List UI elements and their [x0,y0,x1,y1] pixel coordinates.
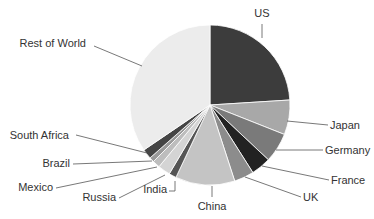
leader-line [169,181,175,191]
leader-line [245,177,301,197]
leader-line [56,167,157,188]
leader-line [262,166,329,180]
slice-label: India [143,183,168,195]
pie-chart: USJapanGermanyFranceUKChinaIndiaRussiaMe… [0,0,374,219]
slice-label: China [198,200,228,212]
pie-slice-us [210,25,290,105]
slice-label: Mexico [18,181,53,193]
slice-label: UK [303,191,319,203]
slice-label: Brazil [42,157,70,169]
slice-label: Japan [330,119,360,131]
slice-label: Germany [325,144,371,156]
leader-line [76,135,147,153]
slice-label: Rest of World [20,37,86,49]
slice-label: Russia [82,191,117,203]
leader-line [94,46,142,66]
leader-line [287,121,328,125]
pie-chart-canvas: USJapanGermanyFranceUKChinaIndiaRussiaMe… [0,0,374,219]
slice-label: US [254,7,269,19]
slice-label: South Africa [10,129,70,141]
pie-slices [130,25,290,185]
leader-line [73,161,152,164]
slice-label: France [331,174,365,186]
